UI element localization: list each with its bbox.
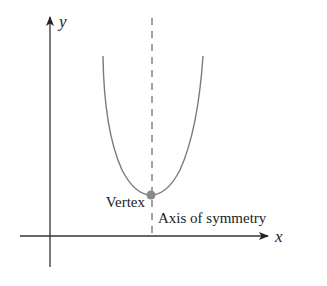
vertex-label: Vertex bbox=[106, 194, 146, 210]
y-axis-label: y bbox=[57, 12, 67, 31]
vertex-dot bbox=[147, 191, 156, 200]
parabola-curve bbox=[103, 56, 203, 195]
axis-of-symmetry-label: Axis of symmetry bbox=[158, 210, 267, 226]
x-axis-label: x bbox=[274, 227, 283, 246]
parabola-diagram: y x Vertex Axis of symmetry bbox=[0, 0, 327, 286]
